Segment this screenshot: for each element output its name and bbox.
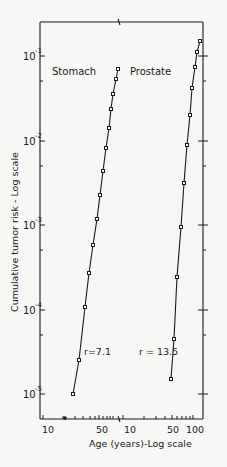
y-axis-title: Cumulative tumor risk - Log scale (9, 152, 20, 312)
series-label-stomach: Stomach (52, 66, 96, 77)
svg-text:50: 50 (167, 424, 179, 435)
annotation-r-stomach: r=7.1 (84, 346, 111, 357)
series-label-prostate: Prostate (130, 66, 171, 77)
svg-text:10: 10 (23, 136, 36, 147)
x-tick-labels: 10 50 10 50 100 (42, 424, 204, 435)
svg-text:100: 100 (186, 424, 204, 435)
svg-text:50: 50 (96, 424, 108, 435)
svg-text:10: 10 (23, 220, 36, 231)
svg-text:-4: -4 (35, 301, 43, 309)
x-axis-title: Age (years)-Log scale (89, 438, 192, 449)
axis-marker (63, 416, 67, 420)
svg-text:-1: -1 (35, 47, 42, 55)
chart-canvas: 10-1 10-2 10-3 10-4 10-5 10 50 10 50 (0, 0, 227, 467)
svg-text:10: 10 (23, 305, 36, 316)
annotation-r-prostate: r = 13.5 (139, 346, 178, 357)
svg-text:-5: -5 (35, 385, 42, 393)
plot-frame (40, 19, 203, 422)
svg-text:10: 10 (124, 424, 136, 435)
svg-text:10: 10 (23, 51, 36, 62)
series-prostate (170, 40, 202, 381)
svg-text:-2: -2 (35, 132, 42, 140)
svg-text:10: 10 (42, 424, 54, 435)
svg-text:10: 10 (23, 389, 36, 400)
svg-text:-3: -3 (35, 216, 42, 224)
